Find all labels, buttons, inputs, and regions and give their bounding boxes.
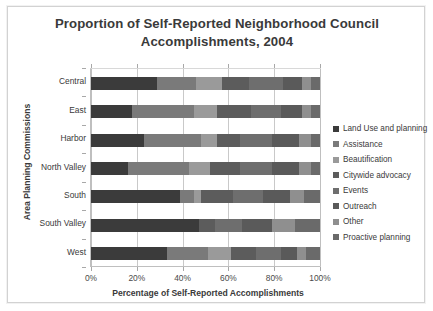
y-axis-tick-label: East: [14, 105, 86, 115]
bar-segment: [302, 77, 311, 90]
x-axis-tick-mark: [274, 267, 275, 271]
bar-segment: [196, 77, 221, 90]
bar-segment: [233, 190, 263, 203]
y-axis-tick-mark: [82, 239, 86, 240]
x-axis-tick-label: 40%: [163, 273, 203, 283]
x-axis-tick-mark: [228, 267, 229, 271]
bar-segment: [302, 105, 311, 118]
bar-segment: [231, 247, 256, 260]
bar-segment: [295, 219, 320, 232]
legend-swatch-icon: [333, 219, 339, 225]
bar-segment: [281, 247, 297, 260]
bar-segment: [91, 247, 167, 260]
bar-segment: [283, 77, 301, 90]
y-axis-tick-label: South Valley: [14, 218, 86, 228]
bar-segment: [132, 105, 194, 118]
bar-segment: [91, 134, 144, 147]
bar-segment: [311, 134, 320, 147]
bar-segment: [91, 219, 199, 232]
bar-segment: [194, 105, 217, 118]
bar-row: [91, 219, 320, 232]
legend-label: Proactive planning: [343, 233, 410, 242]
bar-segment: [299, 162, 310, 175]
x-axis-tick-label: 20%: [117, 273, 157, 283]
bar-segment: [290, 190, 304, 203]
bar-segment: [311, 105, 320, 118]
legend-swatch-icon: [333, 126, 339, 132]
x-axis-tick-mark: [320, 267, 321, 271]
bar-segment: [256, 247, 281, 260]
x-axis-tick-mark-top: [183, 64, 184, 68]
legend-label: Beautification: [343, 155, 392, 164]
chart-title-line-1: Proportion of Self-Reported Neighborhood…: [36, 15, 398, 33]
bar-segment: [299, 134, 310, 147]
legend-item: Other: [333, 214, 425, 230]
y-axis-tick-label: Harbor: [14, 133, 86, 143]
bar-segment: [281, 105, 302, 118]
x-axis-tick-label: 100%: [300, 273, 340, 283]
bar-segment: [128, 162, 190, 175]
legend-swatch-icon: [333, 188, 339, 194]
bar-segment: [91, 77, 157, 90]
bar-segment: [240, 162, 272, 175]
bar-segment: [91, 105, 132, 118]
y-axis-tick-label: West: [14, 247, 86, 257]
bar-segment: [215, 219, 242, 232]
bar-segment: [167, 247, 208, 260]
bar-segment: [251, 105, 281, 118]
bar-segment: [242, 219, 272, 232]
y-axis-tick-mark: [82, 182, 86, 183]
y-axis-tick-labels: CentralEastHarborNorth ValleySouthSouth …: [8, 68, 86, 267]
chart-frame: Proportion of Self-Reported Neighborhood…: [7, 6, 425, 303]
x-axis-tick-mark-top: [91, 64, 92, 68]
y-axis-tick-mark: [82, 68, 86, 69]
bar-segment: [217, 134, 240, 147]
bar-row: [91, 190, 320, 203]
legend-swatch-icon: [333, 157, 339, 163]
gridline: [320, 69, 321, 266]
x-axis-tick-label: 80%: [254, 273, 294, 283]
legend-label: Outreach: [343, 202, 377, 211]
legend-item: Events: [333, 183, 425, 199]
x-axis-title: Percentage of Self-Reported Accomplishme…: [68, 288, 348, 298]
bar-segment: [272, 134, 299, 147]
y-axis-tick-mark: [82, 267, 86, 268]
bar-segment: [311, 77, 320, 90]
x-axis-tick-mark-top: [320, 64, 321, 68]
bar-segment: [249, 77, 283, 90]
bar-segment: [222, 77, 249, 90]
bar-row: [91, 77, 320, 90]
bar-segment: [201, 134, 217, 147]
bar-segment: [180, 190, 194, 203]
y-axis-tick-mark: [82, 153, 86, 154]
legend-item: Assistance: [333, 137, 425, 153]
legend-swatch-icon: [333, 141, 339, 147]
bar-segment: [199, 219, 215, 232]
bar-segment: [217, 105, 251, 118]
x-axis-tick-label: 60%: [208, 273, 248, 283]
legend-item: Outreach: [333, 199, 425, 215]
bar-segment: [304, 190, 320, 203]
legend-item: Land Use and planning: [333, 121, 425, 137]
legend-swatch-icon: [333, 234, 339, 240]
bar-segment: [311, 162, 320, 175]
bar-segment: [208, 247, 231, 260]
bar-segment: [297, 247, 306, 260]
x-axis-tick-mark-top: [274, 64, 275, 68]
legend-label: Other: [343, 217, 363, 226]
bar-row: [91, 134, 320, 147]
x-axis-tick-label: 0%: [71, 273, 111, 283]
x-axis-tick-mark-top: [228, 64, 229, 68]
bar-segment: [272, 219, 295, 232]
legend-item: Beautification: [333, 152, 425, 168]
plot-area: [90, 68, 321, 267]
bar-row: [91, 247, 320, 260]
legend-swatch-icon: [333, 172, 339, 178]
bar-segment: [210, 162, 240, 175]
bar-segment: [306, 247, 320, 260]
legend-swatch-icon: [333, 203, 339, 209]
bar-segment: [91, 190, 180, 203]
legend-label: Citywide advocacy: [343, 171, 411, 180]
y-axis-tick-mark: [82, 125, 86, 126]
x-axis-tick-mark: [183, 267, 184, 271]
